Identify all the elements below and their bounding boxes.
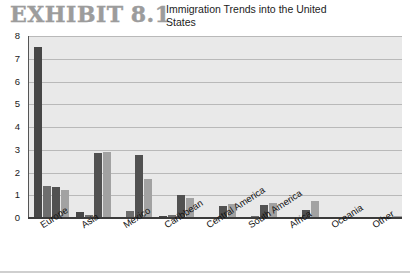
y-axis-tick-label: 1 xyxy=(15,191,20,201)
exhibit-label: EXHIBIT8.1 xyxy=(10,1,170,27)
y-axis-tick-label: 4 xyxy=(15,122,20,132)
chart-title: Immigration Trends into the United State… xyxy=(166,3,341,28)
y-axis-tick-label: 6 xyxy=(15,77,20,87)
bar-group xyxy=(117,36,152,218)
bars-layer xyxy=(29,36,402,218)
y-axis-tick-label: 8 xyxy=(15,31,20,41)
y-axis-tick-label: 3 xyxy=(15,145,20,155)
x-axis-labels: EuropeAsiaMexicoCaribbeanCentral America… xyxy=(0,219,410,273)
bar-group xyxy=(159,36,194,218)
bar-group xyxy=(325,36,360,218)
exhibit-number: 8.1 xyxy=(131,1,171,27)
y-axis-tick-label: 5 xyxy=(15,100,20,110)
bar-group xyxy=(201,36,236,218)
bar-group xyxy=(284,36,319,218)
bar-group xyxy=(367,36,402,218)
bar xyxy=(103,152,111,218)
plot-area xyxy=(28,36,402,218)
bar xyxy=(34,47,42,218)
y-axis-tick-label: 7 xyxy=(15,54,20,64)
exhibit-label-text: EXHIBIT xyxy=(10,1,124,27)
bar xyxy=(94,153,102,218)
y-axis: 012345678 xyxy=(0,36,24,218)
y-axis-tick-label: 2 xyxy=(15,168,20,178)
exhibit-figure: EXHIBIT8.1 Immigration Trends into the U… xyxy=(0,0,410,273)
bar-group xyxy=(76,36,111,218)
bar-group xyxy=(34,36,69,218)
